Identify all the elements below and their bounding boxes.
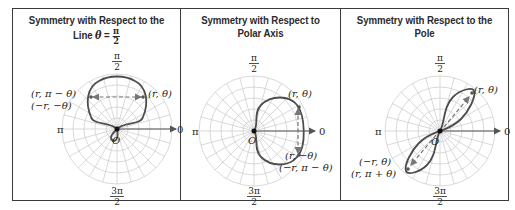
point-label-r-pi-minus-theta: (r, π − θ) (31, 88, 76, 99)
point-label-neg-r-pi-minus-theta: (−r, π − θ) (279, 162, 333, 173)
panel-pole-symmetry: Symmetry with Respect to the Pole (341, 9, 508, 200)
point-label-r-theta: (r, θ) (148, 88, 172, 99)
axis-label-bottom: 3π 2 (247, 186, 261, 207)
pole-label: O (248, 135, 256, 146)
point-label-r-neg-theta: (r, −θ) (285, 150, 317, 161)
svg-text:3π: 3π (248, 186, 260, 196)
pole-label: O (431, 136, 439, 147)
pole-point (438, 129, 443, 134)
svg-text:2: 2 (251, 197, 257, 207)
axis-label-left: π (192, 126, 199, 137)
axis-label-top: π 2 (249, 53, 259, 74)
axis-label-top: π 2 (435, 53, 445, 74)
point-label-r-theta: (r, θ) (288, 88, 312, 99)
svg-text:3π: 3π (434, 186, 446, 196)
svg-text:2: 2 (437, 64, 443, 74)
point-label-r-pi-plus-theta: (r, π + θ) (351, 168, 396, 179)
axis-label-left: π (57, 124, 64, 135)
pole-point (252, 129, 257, 134)
svg-text:2: 2 (114, 62, 120, 72)
svg-text:2: 2 (251, 64, 257, 74)
svg-text:π: π (437, 53, 443, 63)
polar-graph-line-symmetry: O π 2 π 0 3π 2 (r, π − θ) (−r, −θ) (r, θ… (13, 9, 181, 202)
pole-label: O (112, 135, 120, 146)
svg-text:π: π (251, 53, 257, 63)
axis-label-bottom: 3π 2 (110, 186, 124, 207)
panel-line-symmetry: Symmetry with Respect to the Line θ = π2 (13, 9, 181, 200)
svg-text:2: 2 (437, 197, 443, 207)
point-label-neg-r-theta: (−r, θ) (359, 156, 391, 167)
polar-graph-polar-axis-symmetry: O π 2 π 0 3π 2 (r, θ) (r, −θ) (−r, π − θ… (181, 9, 341, 202)
svg-text:π: π (114, 51, 120, 61)
axis-label-top: π 2 (112, 51, 122, 72)
axis-label-bottom: 3π 2 (433, 186, 447, 207)
axis-label-right: 0 (319, 126, 325, 137)
polar-graph-pole-symmetry: O π 2 π 0 3π 2 (r, θ) (−r, θ) (r, π + θ) (341, 9, 508, 202)
axis-label-right: 0 (504, 126, 510, 137)
svg-text:2: 2 (114, 197, 120, 207)
point-label-neg-r-neg-theta: (−r, −θ) (31, 100, 72, 111)
point-label-r-theta: (r, θ) (474, 84, 498, 95)
symmetry-table: Symmetry with Respect to the Line θ = π2 (12, 8, 509, 201)
panel-polar-axis-symmetry: Symmetry with Respect to Polar Axis (181, 9, 341, 200)
pole-point (115, 127, 120, 132)
axis-label-left: π (375, 126, 382, 137)
svg-text:3π: 3π (111, 186, 123, 196)
